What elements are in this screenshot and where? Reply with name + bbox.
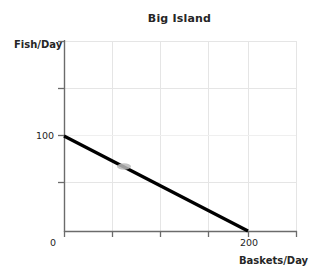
ppf-line <box>64 136 248 231</box>
plot-area <box>0 0 317 280</box>
chart-container: Big Island Fish/Day Baskets/Day 100 0 20… <box>0 0 317 280</box>
y-axis-ticks <box>58 42 64 183</box>
point-marker <box>117 163 131 169</box>
horizontal-gridlines <box>64 42 296 183</box>
